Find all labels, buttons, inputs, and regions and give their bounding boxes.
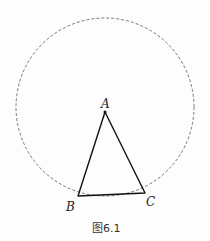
- label-b: B: [65, 200, 75, 214]
- geometry-diagram: A B C 图6.1: [0, 0, 210, 241]
- figure-caption: 图6.1: [92, 222, 121, 235]
- triangle-abc: [78, 112, 145, 196]
- figure: A B C 图6.1: [0, 0, 210, 241]
- label-a: A: [100, 97, 110, 111]
- label-c: C: [146, 195, 155, 209]
